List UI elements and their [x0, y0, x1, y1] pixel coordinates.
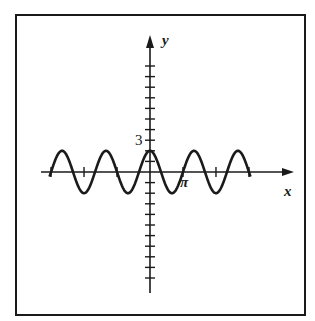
x-axis-label: x — [283, 183, 292, 199]
plot-area: x y π3 — [0, 0, 315, 321]
x-tick-label: π — [180, 174, 189, 190]
axes — [41, 35, 294, 293]
y-axis-arrow-icon — [146, 35, 154, 48]
y-axis-label: y — [160, 32, 169, 48]
y-tick-label: 3 — [135, 132, 143, 148]
x-axis-arrow-icon — [282, 168, 294, 176]
